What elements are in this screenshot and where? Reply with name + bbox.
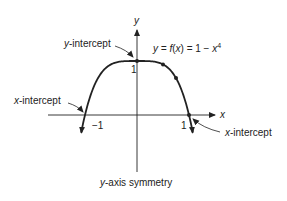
symmetry-label: y-axis symmetry <box>99 177 172 188</box>
point-2 <box>174 76 178 80</box>
y-intercept-pointer <box>115 46 133 57</box>
point-3 <box>187 113 191 117</box>
graph-figure: x y −1 1 1 y = f(x) = 1 − x4 y-intercept… <box>0 0 287 201</box>
function-equation: y = f(x) = 1 − x4 <box>152 42 221 54</box>
x-intercept-right-label: x-intercept <box>224 127 272 138</box>
point-0 <box>135 59 139 63</box>
tick-label-neg1: −1 <box>92 120 104 131</box>
marked-points <box>135 59 191 117</box>
x-intercept-left-label: x-intercept <box>13 95 61 106</box>
y-intercept-label: y-intercept <box>63 38 111 49</box>
x-intercept-right-pointer <box>193 119 220 132</box>
point-1 <box>161 62 165 66</box>
tick-label-pos1: 1 <box>181 120 187 131</box>
y-axis-label: y <box>133 15 140 26</box>
x-axis-label: x <box>219 109 226 120</box>
x-intercept-left-pointer <box>68 103 83 112</box>
tick-label-y1: 1 <box>131 64 137 75</box>
